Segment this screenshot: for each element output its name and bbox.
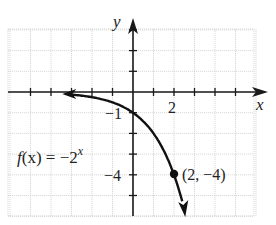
x-tick-label-2: 2 [168,99,176,116]
y-axis-label: y [111,12,121,31]
function-label-exponent: x [77,144,84,158]
point-marker [170,170,178,178]
point-label: (2, −4) [182,166,226,184]
function-label: f(x) = −2x [17,144,84,167]
function-graph: y x 2 −1 −4 f(x) = −2x (2, −4) [0,0,276,225]
y-tick-label-neg4: −4 [104,167,121,184]
y-tick-label-neg1: −1 [105,105,122,122]
function-label-lhs: (x) = −2 [22,148,78,167]
function-curve [72,95,183,202]
x-axis-label: x [255,95,264,114]
grid [8,29,256,216]
curve-down-arrow-icon [178,200,188,217]
